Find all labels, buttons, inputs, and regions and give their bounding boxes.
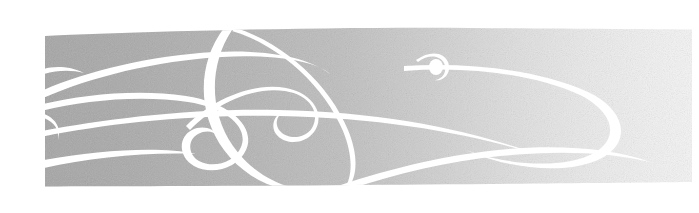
decorative-banner-graphic xyxy=(0,0,699,213)
teardrop-dot xyxy=(429,59,443,75)
banner-canvas: Decorative swirl flourish banner xyxy=(0,0,699,213)
